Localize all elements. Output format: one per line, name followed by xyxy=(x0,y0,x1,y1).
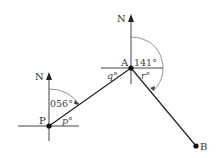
point-label-a: A xyxy=(120,57,129,68)
angle-label-p: p° xyxy=(62,115,73,126)
north-arrow-icon-p xyxy=(46,72,52,80)
bearing-diagram: N N P A B 056° 141° p° q° r° xyxy=(0,0,218,158)
angle-label-141: 141° xyxy=(134,57,157,68)
arc-arrowhead-p xyxy=(74,100,80,105)
north-label-a: N xyxy=(117,13,126,24)
point-p xyxy=(46,123,51,128)
north-label-p: N xyxy=(35,71,44,82)
north-arrow-icon-a xyxy=(128,14,134,22)
angle-label-q: q° xyxy=(107,70,118,81)
point-a xyxy=(128,65,133,70)
point-b xyxy=(193,143,198,148)
angle-label-r: r° xyxy=(141,70,150,81)
point-label-b: B xyxy=(200,141,207,152)
angle-label-056: 056° xyxy=(50,98,73,109)
point-label-p: P xyxy=(39,115,46,126)
